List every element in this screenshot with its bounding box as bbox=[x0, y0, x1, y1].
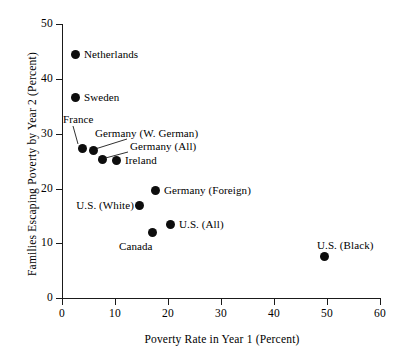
datapoint-ireland[interactable] bbox=[112, 156, 121, 165]
plot-area: Netherlands Sweden France Germany (W. Ge… bbox=[0, 0, 403, 364]
datapoint-germany-west[interactable] bbox=[89, 146, 98, 155]
point-label-us-white: U.S. (White) bbox=[62, 200, 134, 211]
datapoint-france[interactable] bbox=[78, 144, 87, 153]
point-label-us-black: U.S. (Black) bbox=[317, 240, 374, 251]
datapoint-us-all[interactable] bbox=[166, 220, 175, 229]
point-label-canada: Canada bbox=[119, 241, 153, 252]
point-label-germany-all: Germany (All) bbox=[130, 141, 196, 152]
datapoint-us-black[interactable] bbox=[320, 252, 329, 261]
point-label-ireland: Ireland bbox=[125, 155, 157, 166]
point-label-netherlands: Netherlands bbox=[84, 49, 138, 60]
datapoint-sweden[interactable] bbox=[71, 93, 80, 102]
datapoint-germany-foreign[interactable] bbox=[151, 186, 160, 195]
datapoint-netherlands[interactable] bbox=[71, 50, 80, 59]
point-label-sweden: Sweden bbox=[84, 92, 119, 103]
scatter-chart-figure: 50 40 30 20 10 0 0 10 20 30 40 50 60 Pov… bbox=[0, 0, 403, 364]
datapoint-germany-all[interactable] bbox=[98, 155, 107, 164]
point-label-us-all: U.S. (All) bbox=[179, 219, 224, 230]
point-label-france: France bbox=[63, 114, 94, 125]
datapoint-canada[interactable] bbox=[148, 228, 157, 237]
datapoint-us-white[interactable] bbox=[135, 201, 144, 210]
point-label-germany-west: Germany (W. German) bbox=[95, 128, 198, 139]
point-label-germany-foreign: Germany (Foreign) bbox=[164, 185, 251, 196]
